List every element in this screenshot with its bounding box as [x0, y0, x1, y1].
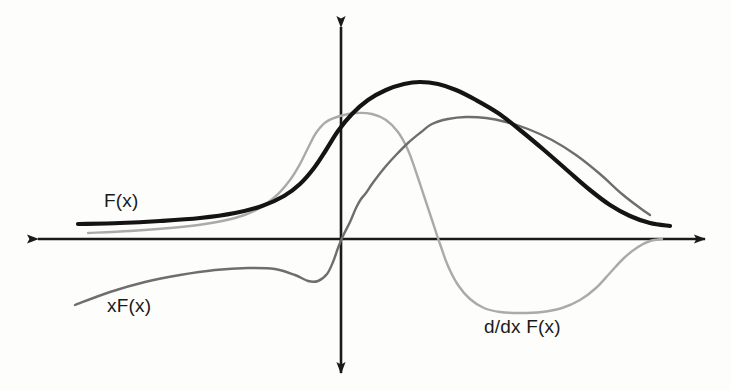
- figure-canvas: F(x) xF(x) d/dx F(x): [0, 0, 731, 391]
- curve-x-f-of-x: [75, 117, 650, 305]
- curve-label-d-dx-f-of-x: d/dx F(x): [484, 316, 561, 338]
- curves-group: [75, 82, 670, 313]
- curve-d-dx-f-of-x: [88, 113, 662, 313]
- curve-f-of-x: [78, 82, 670, 226]
- curve-label-x-f-of-x: xF(x): [107, 295, 151, 317]
- curve-label-f-of-x: F(x): [104, 190, 139, 212]
